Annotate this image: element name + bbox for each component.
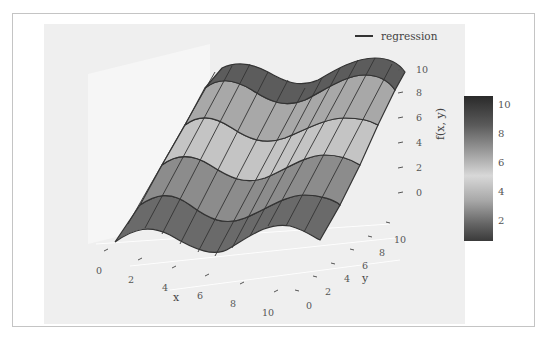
- z-tick: 6: [416, 112, 422, 123]
- y-axis-label: y: [361, 272, 369, 285]
- x-tick: 2: [128, 274, 134, 285]
- z-tick: 10: [416, 64, 428, 75]
- x-tick: 4: [162, 282, 168, 293]
- colorbar-tick: 10: [498, 99, 511, 110]
- z-tick: 2: [416, 162, 422, 173]
- z-axis-ticks: 10 8 6 4 2 0: [398, 64, 428, 198]
- y-tick: 4: [344, 273, 350, 284]
- colorbar: [464, 96, 493, 241]
- x-tick: 0: [96, 265, 102, 276]
- z-tick: 0: [416, 187, 422, 198]
- z-tick: 8: [416, 87, 422, 98]
- z-axis-label: f(x, y): [434, 108, 447, 140]
- z-tick: 4: [416, 137, 422, 148]
- y-tick: 8: [379, 247, 385, 258]
- y-tick: 2: [325, 286, 331, 297]
- legend-line-swatch: [355, 35, 373, 37]
- legend-label: regression: [381, 30, 437, 42]
- y-tick: 0: [306, 300, 312, 311]
- colorbar-tick: 4: [498, 186, 504, 197]
- legend[interactable]: regression: [355, 30, 437, 42]
- x-axis-ticks: 0 2 4 6 8 10: [96, 249, 278, 318]
- y-tick: 10: [394, 234, 406, 245]
- x-tick: 8: [230, 298, 236, 309]
- colorbar-tick: 2: [498, 215, 504, 226]
- y-tick: 6: [362, 260, 368, 271]
- colorbar-tick: 8: [498, 128, 504, 139]
- colorbar-tick: 6: [498, 157, 504, 168]
- x-tick: 6: [197, 290, 203, 301]
- x-axis-label: x: [173, 291, 180, 304]
- x-tick: 10: [262, 307, 274, 318]
